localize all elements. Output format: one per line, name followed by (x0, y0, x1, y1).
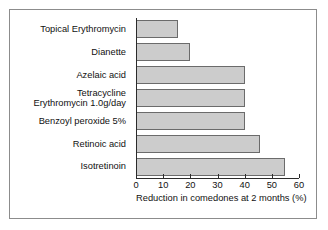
bar (136, 158, 285, 176)
bar-slot (136, 18, 299, 41)
category-label: Dianette (10, 41, 131, 64)
category-label: Azelaic acid (10, 64, 131, 87)
bar-slot (136, 64, 299, 87)
x-axis-tick-label: 50 (267, 180, 277, 190)
y-axis-line (136, 18, 137, 179)
x-axis-tick (272, 174, 273, 178)
bar-slot (136, 109, 299, 132)
bar (136, 89, 245, 107)
bar-chart: Topical ErythromycinDianetteAzelaic acid… (10, 10, 316, 218)
x-axis-tick-label: 0 (133, 180, 138, 190)
category-axis-labels: Topical ErythromycinDianetteAzelaic acid… (10, 18, 131, 178)
x-axis-tick-label: 60 (294, 180, 304, 190)
x-axis-tick (218, 174, 219, 178)
plot-area (136, 18, 299, 178)
x-axis-tick (190, 174, 191, 178)
category-label: Tetracycline Erythromycin 1.0g/day (10, 87, 131, 110)
x-axis-tick (163, 174, 164, 178)
bar (136, 112, 245, 130)
category-label: Retinoic acid (10, 132, 131, 155)
x-axis-tick-label: 10 (158, 180, 168, 190)
x-axis-tick (299, 174, 300, 178)
category-label: Topical Erythromycin (10, 18, 131, 41)
x-axis-tick (245, 174, 246, 178)
x-axis-tick-label: 30 (212, 180, 222, 190)
bar (136, 43, 190, 61)
bar-slot (136, 132, 299, 155)
bar-slot (136, 87, 299, 110)
x-axis-tick-label: 40 (239, 180, 249, 190)
bar (136, 135, 260, 153)
x-axis-tick (136, 174, 137, 178)
bar-slot (136, 41, 299, 64)
x-axis-line (136, 178, 299, 179)
figure-frame: Topical ErythromycinDianetteAzelaic acid… (9, 9, 317, 219)
bar (136, 66, 245, 84)
category-label: Isotretinoin (10, 155, 131, 178)
x-axis-title: Reduction in comedones at 2 months (%) (136, 193, 299, 203)
bar-series (136, 18, 299, 178)
x-axis-tick-label: 20 (185, 180, 195, 190)
category-label: Benzoyl peroxide 5% (10, 109, 131, 132)
bar (136, 20, 178, 38)
